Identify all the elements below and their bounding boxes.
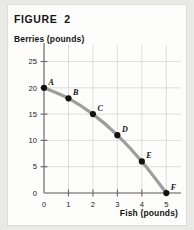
y-tick-label: 15 [29,110,37,119]
x-tick-label: 3 [115,200,119,209]
data-point-c [90,111,96,117]
grid-lines [44,45,181,193]
x-axis-title: Fish (pounds) [120,208,178,218]
data-point-a [41,85,47,91]
point-label-c: C [97,104,103,113]
y-tick-label: 20 [29,84,37,93]
tick-marks [41,62,167,197]
y-tick-label: 10 [29,136,37,145]
y-tick-label: 5 [33,162,37,171]
point-label-b: B [72,88,79,97]
data-point-e [139,158,145,164]
x-tick-label: 1 [66,200,70,209]
y-tick-label: 0 [33,189,37,198]
point-label-f: F [170,183,177,192]
data-point-f [163,190,169,196]
point-label-d: D [121,125,128,134]
data-point-d [114,132,120,138]
data-point-b [65,95,71,101]
point-labels: ABCDEF [48,78,177,192]
x-tick-label: 2 [91,200,95,209]
figure-card: FIGURE 2 Berries (pounds) 05101520250123… [8,5,186,225]
ppf-chart-plot: 0510152025012345 ABCDEF [8,5,186,225]
point-label-e: E [145,151,151,160]
point-label-a: A [48,78,55,87]
x-tick-label: 0 [42,200,46,209]
y-tick-label: 25 [29,57,37,66]
axes [44,43,181,193]
